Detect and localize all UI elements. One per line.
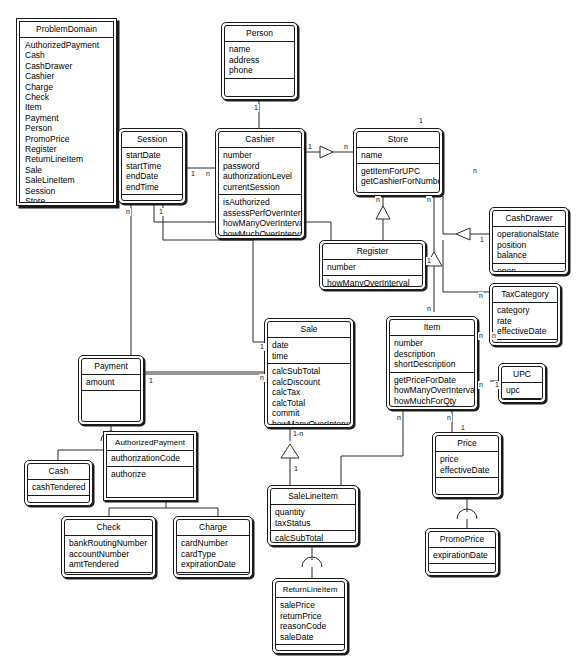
class-box-cashier[interactable]: Cashier number password authorizationLev… xyxy=(215,128,305,239)
class-box-item[interactable]: Item number description shortDescription… xyxy=(386,316,478,410)
attribute: rate xyxy=(497,316,553,327)
class-name-charge: Charge xyxy=(177,520,249,536)
multiplicity-cashier-top: 1 xyxy=(418,117,424,125)
class-name-item: Item xyxy=(390,320,474,336)
class-attributes-charge: cardNumber cardType expirationDate xyxy=(177,536,249,573)
class-operations-taxcategory xyxy=(493,340,557,344)
class-name-person: Person xyxy=(225,26,294,42)
operation: assessPerfOverInterval xyxy=(223,208,297,219)
class-box-cash[interactable]: Cash cashTendered xyxy=(24,460,93,506)
class-attributes-promoprice: expirationDate xyxy=(429,548,495,564)
attribute: effectiveDate xyxy=(497,326,553,337)
class-box-payment[interactable]: Payment amount xyxy=(78,355,144,425)
multiplicity-store-register-n: n xyxy=(375,196,381,204)
class-operations-store: getItemForUPC getCashierForNumber xyxy=(357,164,439,193)
class-operations-cash xyxy=(28,496,89,503)
class-box-store[interactable]: Store name getItemForUPC getCashierForNu… xyxy=(353,128,443,196)
class-box-person[interactable]: Person name address phone xyxy=(221,22,298,100)
class-operations-item: getPriceForDate howManyOverInterval howM… xyxy=(390,373,474,408)
class-box-returnlineitem[interactable]: ReturnLineItem salePrice returnPrice rea… xyxy=(272,578,348,654)
class-box-cashdrawer[interactable]: CashDrawer operationalState position bal… xyxy=(489,207,569,275)
class-attributes-register: number xyxy=(323,260,422,276)
class-attributes-cash: cashTendered xyxy=(28,480,89,496)
class-box-authorizedpayment[interactable]: AuthorizedPayment authorizationCode auth… xyxy=(103,431,197,501)
class-box-register[interactable]: Register number howManyOverInterval howM… xyxy=(319,240,426,290)
assoc-session-sale-stub2 xyxy=(163,240,253,342)
class-box-sale[interactable]: Sale date time calcSubTotal calcDiscount… xyxy=(264,318,354,428)
class-operations-payment xyxy=(82,391,140,422)
attribute: salePrice xyxy=(280,600,340,611)
class-box-charge[interactable]: Charge cardNumber cardType expirationDat… xyxy=(173,516,253,578)
class-operations-cashdrawer: open xyxy=(493,264,565,273)
class-box-check[interactable]: Check bankRoutingNumber accountNumber am… xyxy=(61,516,156,578)
class-box-taxcategory[interactable]: TaxCategory category rate effectiveDate xyxy=(489,283,561,346)
package-class-item: ReturnLineItem xyxy=(25,154,108,164)
attribute: time xyxy=(272,351,346,362)
attribute: saleDate xyxy=(280,632,340,643)
class-operations-promoprice xyxy=(429,564,495,573)
operation: calcTotal xyxy=(272,398,346,409)
attribute: currentSession xyxy=(223,182,297,193)
operation: getCashierForNumber xyxy=(361,176,435,187)
package-box-problemdomain[interactable]: ProblemDomain AuthorizedPayment Cash Cas… xyxy=(16,18,117,206)
operation: howManyOverInterval xyxy=(272,419,346,426)
attribute: authorizationLevel xyxy=(223,171,297,182)
multiplicity-item-taxcategory-n: n xyxy=(478,332,484,340)
multiplicity-sale-left-1: 1 xyxy=(259,343,265,351)
operation: commit xyxy=(272,408,346,419)
multiplicity-session-cashier-1: 1 xyxy=(190,170,196,178)
class-box-session[interactable]: Session startDate startTime endDate endT… xyxy=(118,128,186,204)
class-name-authorizedpayment: AuthorizedPayment xyxy=(107,435,193,451)
attribute: number xyxy=(223,150,297,161)
multiplicity-store-cashier-n: n xyxy=(343,143,349,151)
class-box-upc[interactable]: UPC upc xyxy=(498,363,546,403)
multiplicity-cashdrawer-1: 1 xyxy=(479,236,485,244)
attribute: startTime xyxy=(126,161,178,172)
attribute: balance xyxy=(497,250,561,261)
assoc-authpay-branch2 xyxy=(166,508,218,516)
attribute: bankRoutingNumber xyxy=(69,538,148,549)
class-operations-price xyxy=(436,478,498,494)
class-name-salelineitem: SaleLineItem xyxy=(271,489,355,505)
class-operations-register: howManyOverInterval howMuchOverInterval xyxy=(323,276,422,288)
class-operations-person xyxy=(225,79,294,97)
package-class-list: AuthorizedPayment Cash CashDrawer Cashie… xyxy=(20,38,113,203)
class-operations-charge xyxy=(177,573,249,576)
class-name-store: Store xyxy=(357,132,439,148)
class-box-salelineitem[interactable]: SaleLineItem quantity taxStatus calcSubT… xyxy=(267,485,359,546)
multiplicity-store-taxcategory-n: n xyxy=(478,292,484,300)
package-title: ProblemDomain xyxy=(20,22,113,38)
class-name-taxcategory: TaxCategory xyxy=(493,287,557,303)
class-box-promoprice[interactable]: PromoPrice expirationDate xyxy=(425,528,499,576)
package-class-item: Sale xyxy=(25,165,108,175)
class-operations-upc xyxy=(502,399,542,401)
operation: getItemForUPC xyxy=(361,166,435,177)
class-box-price[interactable]: Price price effectiveDate xyxy=(432,432,502,498)
multiplicity-item-price-n: n xyxy=(446,414,452,422)
class-attributes-salelineitem: quantity taxStatus xyxy=(271,505,355,531)
operation: calcSubTotal xyxy=(272,366,346,377)
package-class-item: Cashier xyxy=(25,71,108,81)
attribute: endTime xyxy=(126,182,178,193)
attribute: amtTendered xyxy=(69,559,148,570)
multiplicity-cashier-store-1: 1 xyxy=(307,143,313,151)
attribute: number xyxy=(394,338,470,349)
assoc-store-cashdrawer-path xyxy=(440,196,456,234)
class-attributes-cashdrawer: operationalState position balance xyxy=(493,227,565,264)
class-name-promoprice: PromoPrice xyxy=(429,532,495,548)
operation: howManyOverInterval xyxy=(327,278,418,288)
package-class-item: Store xyxy=(25,196,108,203)
aggregation-arrow-store-cashdrawer xyxy=(456,228,470,240)
class-operations-cashier: isAuthorized assessPerfOverInterval howM… xyxy=(219,195,301,236)
attribute: reasonCode xyxy=(280,621,340,632)
package-class-item: AuthorizedPayment xyxy=(25,40,108,50)
attribute: accountNumber xyxy=(69,549,148,560)
operation: authorize xyxy=(111,469,189,480)
attribute: returnPrice xyxy=(280,611,340,622)
attribute: effectiveDate xyxy=(440,465,494,476)
uml-diagram-canvas: 1 1 1 n n 1 1 n n n n 1 n 1 n 1 1-n 1 n … xyxy=(0,0,583,667)
attribute: upc xyxy=(506,385,538,396)
multiplicity-payment-1: 1 xyxy=(148,377,154,385)
class-operations-returnlineitem xyxy=(276,645,344,650)
operation: calcDiscount xyxy=(272,377,346,388)
